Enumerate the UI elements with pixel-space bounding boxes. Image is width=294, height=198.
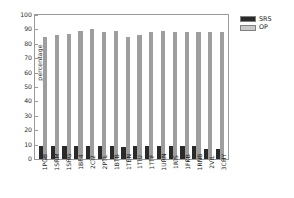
x-axis-tick: 1SHG xyxy=(60,161,72,198)
legend-swatch-srs xyxy=(240,16,256,22)
x-axis-tick: 1SRM xyxy=(48,161,60,198)
chart-legend: SRSOP xyxy=(238,14,290,35)
bar-group xyxy=(72,15,84,159)
x-axis-tick: 3CHY xyxy=(215,161,227,198)
bar-group xyxy=(167,15,179,159)
x-axis-tick: 2VIL xyxy=(203,161,215,198)
bar-op xyxy=(149,32,153,159)
bar-group xyxy=(49,15,61,159)
bar-op xyxy=(126,37,130,159)
bar-op xyxy=(67,34,71,159)
x-axis-tick: 1RNB xyxy=(191,161,203,198)
legend-label: OP xyxy=(259,24,268,30)
x-axis-tick: 1BTB xyxy=(108,161,120,198)
bar-op xyxy=(90,29,94,159)
y-axis-tick-label: 80 xyxy=(24,41,35,47)
x-axis-labels: 1PGB1SRM1SHG1BF42CI22PTL1BTB1TEN1TIU1TTF… xyxy=(34,161,229,198)
y-axis-tick-label: 60 xyxy=(24,70,35,76)
y-axis-tick-label: 40 xyxy=(24,98,35,104)
x-axis-tick: 1BF4 xyxy=(72,161,84,198)
x-axis-tick-label: 3CHY xyxy=(221,154,227,171)
x-axis-tick: 1PGB xyxy=(36,161,48,198)
bar-groups xyxy=(35,15,228,159)
y-axis-tick-label: 70 xyxy=(24,55,35,61)
y-axis-tick-label: 90 xyxy=(24,26,35,32)
bar-op xyxy=(196,32,200,159)
bar-op xyxy=(208,32,212,159)
y-axis-tick-label: 20 xyxy=(24,127,35,133)
x-axis-tick: 1TIU xyxy=(132,161,144,198)
bar-group xyxy=(96,15,108,159)
bar-group xyxy=(214,15,226,159)
legend-label: SRS xyxy=(259,16,272,22)
bar-group xyxy=(202,15,214,159)
bar-group xyxy=(84,15,96,159)
bar-group xyxy=(191,15,203,159)
bar-op xyxy=(220,32,224,159)
x-axis-tick: 1TEN xyxy=(120,161,132,198)
bar-op xyxy=(161,31,165,159)
bar-group xyxy=(132,15,144,159)
y-axis-tick-label: 100 xyxy=(20,12,35,18)
x-axis-tick: 1RIS xyxy=(167,161,179,198)
x-axis-tick: 1FKB xyxy=(179,161,191,198)
legend-item[interactable]: SRS xyxy=(240,16,288,22)
bar-op xyxy=(55,35,59,159)
x-axis-tick: 1URN xyxy=(155,161,167,198)
bar-op xyxy=(173,32,177,159)
chart-figure: percentage 0102030405060708090100 1PGB1S… xyxy=(0,0,294,198)
bar-group xyxy=(61,15,73,159)
bar-op xyxy=(114,31,118,159)
x-axis-tick: 2PTL xyxy=(96,161,108,198)
bar-op xyxy=(102,32,106,159)
bar-op xyxy=(43,37,47,159)
legend-item[interactable]: OP xyxy=(240,24,288,30)
bar-op xyxy=(78,31,82,159)
bar-group xyxy=(108,15,120,159)
plot-area: percentage 0102030405060708090100 xyxy=(34,14,229,160)
x-axis-tick: 1TTF xyxy=(143,161,155,198)
bar-group xyxy=(143,15,155,159)
bar-group xyxy=(155,15,167,159)
bar-op xyxy=(137,35,141,159)
y-axis-tick-mark xyxy=(35,159,38,160)
y-axis-tick-label: 50 xyxy=(24,84,35,90)
y-axis-tick-label: 10 xyxy=(24,142,35,148)
y-axis-tick-label: 30 xyxy=(24,113,35,119)
bar-op xyxy=(185,32,189,159)
x-axis-tick: 2CI2 xyxy=(84,161,96,198)
bar-group xyxy=(37,15,49,159)
legend-swatch-op xyxy=(240,25,256,31)
bar-group xyxy=(179,15,191,159)
bar-group xyxy=(120,15,132,159)
